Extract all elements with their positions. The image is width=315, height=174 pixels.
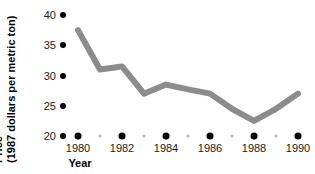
chart-figure: Price (1987 dollars per metric ton) 40 3… (0, 0, 315, 174)
x-tick-label: 1984 (154, 142, 178, 154)
x-tick-label: 1986 (198, 142, 222, 154)
x-tick-dot-minor (143, 135, 146, 138)
x-tick-dot-minor (99, 135, 102, 138)
x-tick-dot-major (163, 133, 170, 140)
x-tick-dot-major (119, 133, 126, 140)
x-tick-dot-major (295, 133, 302, 140)
x-tick-label: 1988 (242, 142, 266, 154)
x-tick-label: 1982 (110, 142, 134, 154)
x-tick-dot-minor (275, 135, 278, 138)
x-tick-dot-minor (231, 135, 234, 138)
x-axis-title: Year (68, 157, 91, 169)
x-axis-tick-labels: 1980 1982 1984 1986 1988 1990 (0, 142, 315, 158)
x-axis-tick-marks (0, 136, 315, 137)
x-tick-dot-major (75, 133, 82, 140)
x-tick-label: 1990 (286, 142, 310, 154)
x-tick-label: 1980 (66, 142, 90, 154)
x-tick-dot-major (251, 133, 258, 140)
x-tick-dot-minor (187, 135, 190, 138)
x-tick-dot-major (207, 133, 214, 140)
price-line-series (78, 30, 298, 121)
